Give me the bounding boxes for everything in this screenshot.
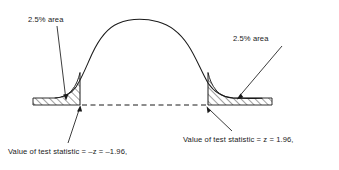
label-tail-area-right: 2.5% area bbox=[233, 35, 269, 43]
normal-distribution-diagram bbox=[0, 0, 339, 170]
leader-area-left bbox=[57, 26, 69, 101]
leader-statistic-left bbox=[68, 105, 82, 143]
label-test-statistic-positive: Value of test statistic = z = 1.96, bbox=[183, 136, 294, 144]
right-tail-shaded-region bbox=[205, 68, 275, 108]
leader-area-right bbox=[237, 46, 282, 100]
label-tail-area-left: 2.5% area bbox=[28, 16, 64, 24]
label-test-statistic-negative: Value of test statistic = –z = –1.96, bbox=[8, 148, 127, 156]
figure-container: 2.5% area 2.5% area Value of test statis… bbox=[0, 0, 339, 170]
normal-curve bbox=[55, 19, 262, 98]
leader-statistic-right bbox=[207, 106, 232, 131]
